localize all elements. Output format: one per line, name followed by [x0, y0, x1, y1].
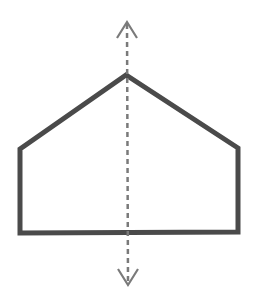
symmetry-axis-line	[127, 24, 128, 284]
pentagon-shape	[20, 75, 238, 233]
symmetry-diagram	[0, 0, 256, 292]
